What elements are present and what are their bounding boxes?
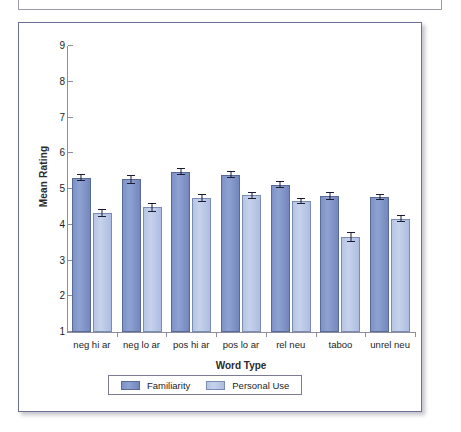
y-tick: 9 [39, 40, 73, 52]
error-bar-cap-bottom [98, 216, 106, 217]
error-bar [177, 168, 185, 175]
bar-chart: Mean Rating 123456789 neg hi arneg lo ar… [19, 23, 423, 413]
chart-legend: FamiliarityPersonal Use [108, 375, 302, 395]
y-tick: 7 [39, 112, 73, 124]
y-tick: 2 [39, 290, 73, 302]
y-tick-label: 1 [59, 326, 65, 338]
x-tick-mark [415, 332, 416, 337]
y-tick-mark [68, 152, 73, 153]
x-tick-mark [166, 332, 167, 337]
bar [171, 172, 190, 332]
x-tick-label: rel neu [266, 339, 316, 350]
error-bar [376, 194, 384, 200]
y-tick-label: 2 [59, 290, 65, 302]
error-bar [297, 198, 305, 204]
error-bar-cap-bottom [248, 198, 256, 199]
error-bar [248, 192, 256, 199]
error-bar-cap-bottom [127, 183, 135, 184]
y-tick-label: 9 [59, 40, 65, 52]
bar [93, 213, 112, 332]
error-bar-cap-bottom [326, 199, 334, 200]
error-bar [198, 194, 206, 203]
error-bar [98, 209, 106, 216]
y-tick-label: 6 [59, 147, 65, 159]
error-bar [148, 203, 156, 212]
y-tick-label: 3 [59, 255, 65, 267]
legend-entry: Personal Use [206, 380, 289, 391]
error-bar [347, 232, 355, 241]
y-tick: 5 [39, 183, 73, 195]
error-bar-cap-bottom [276, 187, 284, 188]
y-tick-label: 7 [59, 112, 65, 124]
error-bar-cap-bottom [397, 221, 405, 222]
y-tick: 8 [39, 76, 73, 88]
bar [122, 179, 141, 332]
bar [72, 178, 91, 332]
y-tick-label: 5 [59, 183, 65, 195]
x-tick-label: pos hi ar [166, 339, 216, 350]
error-bar [227, 171, 235, 177]
error-bar-cap-bottom [376, 199, 384, 200]
y-tick: 4 [39, 219, 73, 231]
x-axis-title: Word Type [67, 360, 415, 371]
legend-swatch [206, 381, 225, 390]
legend-swatch [121, 381, 140, 390]
error-bar-cap-bottom [148, 211, 156, 212]
error-bar-cap-bottom [227, 177, 235, 178]
x-axis-line [67, 332, 415, 333]
legend-label: Personal Use [232, 380, 289, 391]
error-bar [397, 215, 405, 221]
x-tick-label: taboo [316, 339, 366, 350]
bar [341, 237, 360, 332]
bar [271, 185, 290, 332]
y-axis-title: Mean Rating [38, 127, 49, 227]
x-tick-label: pos lo ar [216, 339, 266, 350]
bar [391, 219, 410, 332]
legend-entry: Familiarity [121, 380, 190, 391]
x-tick-mark [216, 332, 217, 337]
x-tick-mark [266, 332, 267, 337]
y-tick: 6 [39, 147, 73, 159]
figure-panel: Mean Rating 123456789 neg hi arneg lo ar… [18, 22, 422, 412]
x-tick-label: neg hi ar [67, 339, 117, 350]
bar [370, 197, 389, 332]
error-bar-cap-bottom [198, 201, 206, 202]
bar [192, 198, 211, 332]
legend-label: Familiarity [147, 380, 190, 391]
error-bar [326, 192, 334, 200]
error-bar [276, 181, 284, 187]
error-bar [127, 175, 135, 184]
y-tick-mark [68, 81, 73, 82]
y-tick-label: 4 [59, 219, 65, 231]
error-bar [77, 174, 85, 181]
error-bar-cap-bottom [297, 203, 305, 204]
x-tick-mark [117, 332, 118, 337]
error-bar-cap-bottom [77, 180, 85, 181]
x-tick-mark [316, 332, 317, 337]
x-tick-mark [365, 332, 366, 337]
x-tick-label: unrel neu [365, 339, 415, 350]
y-tick-mark [68, 117, 73, 118]
bar [320, 196, 339, 332]
error-bar-cap-bottom [347, 241, 355, 242]
bar [221, 175, 240, 332]
y-tick-mark [68, 45, 73, 46]
bar [292, 201, 311, 332]
bar [143, 207, 162, 332]
y-tick: 3 [39, 255, 73, 267]
bar [242, 195, 261, 332]
error-bar-cap-bottom [177, 174, 185, 175]
x-tick-label: neg lo ar [117, 339, 167, 350]
cropped-page-frame-edge [18, 0, 442, 10]
y-tick-label: 8 [59, 76, 65, 88]
